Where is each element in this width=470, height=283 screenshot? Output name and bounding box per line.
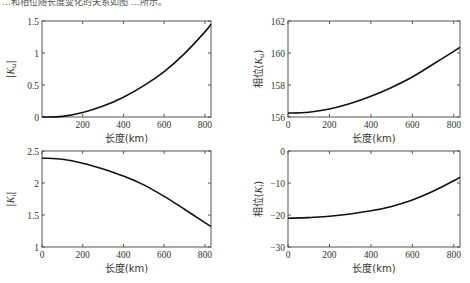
- y-axis-label: 相位(Ku): [252, 49, 266, 88]
- y-tick-label: 1: [34, 243, 39, 253]
- x-tick-label: 400: [116, 250, 131, 260]
- x-tick-label: 200: [76, 120, 91, 130]
- x-tick-label: 800: [447, 120, 462, 130]
- y-tick-label: 1.5: [27, 211, 39, 221]
- plot-frame: [42, 151, 211, 247]
- data-curve: [42, 158, 211, 227]
- x-tick-label: 400: [116, 120, 131, 130]
- x-tick-label: 0: [40, 250, 45, 260]
- x-tick-label: 800: [447, 250, 462, 260]
- x-tick-label: 200: [322, 120, 337, 130]
- x-tick-label: 600: [157, 250, 172, 260]
- figure-2x2-plots: 20040060080000.511.5长度(km)|Ku|0200400600…: [0, 0, 470, 283]
- x-tick-label: 400: [364, 120, 379, 130]
- plot-frame: [288, 21, 460, 117]
- x-axis-label: 长度(km): [105, 262, 148, 274]
- y-tick-label: 160: [271, 49, 286, 59]
- x-tick-label: 800: [198, 250, 213, 260]
- data-curve: [288, 177, 460, 218]
- ku-phase-chart: 0200400600800156158160162长度(km)相位(Ku): [252, 17, 461, 145]
- data-curve: [42, 24, 211, 117]
- ki-magnitude-chart: 020040060080011.522.5长度(km)|Ki|: [5, 147, 212, 275]
- y-tick-label: 0.5: [27, 81, 39, 91]
- x-tick-label: 200: [322, 250, 337, 260]
- x-axis-label: 长度(km): [352, 262, 395, 274]
- y-axis-label: |Ki|: [5, 191, 18, 206]
- ku-magnitude-chart: 20040060080000.511.5长度(km)|Ku|: [5, 17, 212, 145]
- y-tick-label: 156: [271, 113, 286, 123]
- ki-phase-chart: 0200400600800−30−20−100长度(km)相位(Ki): [252, 147, 461, 275]
- y-tick-label: 162: [271, 17, 286, 27]
- y-tick-label: 1.5: [27, 17, 39, 27]
- y-tick-label: −20: [270, 211, 285, 221]
- y-tick-label: −30: [270, 243, 285, 253]
- y-tick-label: 158: [271, 81, 286, 91]
- plot-frame: [42, 21, 211, 117]
- y-tick-label: 2.5: [27, 147, 39, 157]
- x-tick-label: 200: [76, 250, 91, 260]
- x-tick-label: 600: [405, 120, 420, 130]
- y-axis-label: 相位(Ki): [252, 181, 266, 218]
- y-tick-label: 0: [34, 113, 39, 123]
- y-tick-label: 2: [34, 179, 39, 189]
- x-axis-label: 长度(km): [352, 132, 395, 144]
- y-axis-label: |Ku|: [5, 60, 18, 78]
- y-tick-label: 0: [280, 147, 285, 157]
- data-curve: [288, 47, 460, 113]
- x-tick-label: 600: [405, 250, 420, 260]
- x-tick-label: 400: [364, 250, 379, 260]
- y-tick-label: −10: [270, 179, 285, 189]
- x-axis-label: 长度(km): [105, 132, 148, 144]
- x-tick-label: 600: [157, 120, 172, 130]
- x-tick-label: 800: [198, 120, 213, 130]
- x-tick-label: 0: [286, 250, 291, 260]
- x-tick-label: 0: [286, 120, 291, 130]
- y-tick-label: 1: [34, 49, 39, 59]
- plot-frame: [288, 151, 460, 247]
